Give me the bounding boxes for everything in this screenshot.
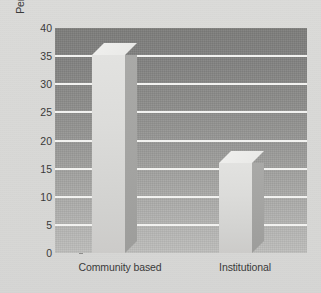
- y-tick-label: 5: [28, 220, 52, 230]
- y-tick-mark: [79, 253, 83, 254]
- bar-side-face: [125, 55, 137, 253]
- bar-institutional[interactable]: [219, 163, 252, 253]
- bar-top-face: [219, 151, 264, 163]
- bar-front-face: [219, 163, 252, 253]
- x-category-label-community-based: Community based: [55, 261, 185, 273]
- plot-area: [55, 28, 307, 253]
- y-tick-label: 40: [28, 23, 52, 33]
- bar-front-face: [92, 55, 125, 253]
- y-axis-title: Percent reduction in recidivism rates: [12, 0, 28, 44]
- chart-figure: Percent reduction in recidivism rates 40…: [0, 0, 321, 293]
- y-tick-label: 0: [28, 248, 52, 258]
- y-tick-label: 35: [28, 51, 52, 61]
- y-tick-label: 30: [28, 79, 52, 89]
- bar-community-based[interactable]: [92, 55, 125, 253]
- y-tick-label: 15: [28, 164, 52, 174]
- y-axis-tick-labels: 40 35 30 25 20 15 10 5 0: [28, 0, 52, 293]
- y-tick-label: 20: [28, 136, 52, 146]
- bar-side-face: [252, 163, 264, 253]
- y-tick-label: 25: [28, 107, 52, 117]
- x-category-label-institutional: Institutional: [185, 261, 305, 273]
- bar-top-face: [92, 43, 137, 55]
- y-tick-label: 10: [28, 192, 52, 202]
